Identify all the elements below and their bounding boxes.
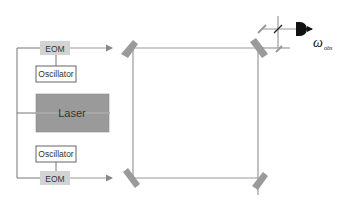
svg-text:EOM: EOM xyxy=(45,44,64,54)
eom-top: EOM xyxy=(40,41,70,55)
oscillator-top: Oscillator xyxy=(36,66,76,82)
svg-text:obs: obs xyxy=(324,45,333,51)
laser: Laser xyxy=(36,94,109,132)
svg-text:Laser: Laser xyxy=(58,107,86,119)
photodetector xyxy=(296,22,312,36)
svg-text:Oscillator: Oscillator xyxy=(38,149,74,159)
oscillator-bottom: Oscillator xyxy=(36,146,76,162)
svg-text:ω: ω xyxy=(313,35,323,50)
mirror-bottom-right xyxy=(252,172,268,190)
optics-diagram: EOM Oscillator Laser Oscillator EOM xyxy=(0,0,348,201)
svg-text:Oscillator: Oscillator xyxy=(38,69,74,79)
svg-text:EOM: EOM xyxy=(45,174,64,184)
omega-obs-label: ω obs xyxy=(313,35,333,51)
mirror-top-left xyxy=(121,40,138,58)
fold-mirror xyxy=(276,46,282,52)
eom-bottom: EOM xyxy=(40,171,70,185)
